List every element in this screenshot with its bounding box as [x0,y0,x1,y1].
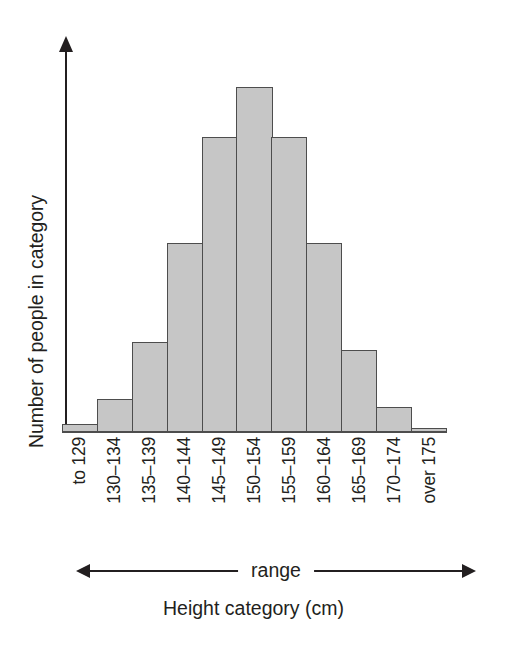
x-tick-label: 165–169 [351,437,369,504]
bar [167,243,203,432]
y-axis-label: Number of people in category [14,58,58,448]
histogram-figure: Number of people in category to 129 130–… [0,0,507,655]
x-tick-label: 135–139 [141,437,159,504]
x-tick: 140–144 [167,437,202,543]
x-tick-label: over 175 [421,437,439,504]
bar [306,243,342,432]
x-axis-tick-labels: to 129 130–134 135–139 140–144 145–149 1… [62,437,447,543]
x-tick-label: 130–134 [106,437,124,504]
x-tick-label: 145–149 [211,437,229,504]
bar [271,137,307,433]
x-tick: 135–139 [132,437,167,543]
x-tick-label: 150–154 [246,437,264,504]
x-tick: 165–169 [342,437,377,543]
x-tick-label: 160–164 [316,437,334,504]
x-tick: 160–164 [307,437,342,543]
bar [341,350,377,432]
x-tick-label: 170–174 [386,437,404,504]
x-tick-label: 140–144 [176,437,194,504]
x-tick: 145–149 [202,437,237,543]
x-tick: 150–154 [237,437,272,543]
x-tick-label: 155–159 [281,437,299,504]
bar [376,407,412,432]
arrow-left-icon [76,564,90,578]
x-tick: 170–174 [377,437,412,543]
bar [202,137,238,433]
x-axis-title: Height category (cm) [0,597,507,620]
bar [97,399,133,432]
x-tick: to 129 [62,437,97,543]
plot-area [62,38,447,432]
range-label: range [238,555,314,585]
x-tick: over 175 [412,437,447,543]
x-axis-baseline [62,431,447,433]
x-tick: 130–134 [97,437,132,543]
bar [236,87,272,432]
bar-series [62,38,447,432]
bar [132,342,168,432]
range-annotation: range [76,556,476,586]
arrow-right-icon [462,564,476,578]
x-tick: 155–159 [272,437,307,543]
x-tick-label: to 129 [71,437,89,484]
